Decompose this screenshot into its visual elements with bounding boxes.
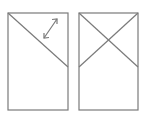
left-rectangle bbox=[8, 13, 68, 110]
right-panel bbox=[79, 13, 138, 110]
left-diagonal-line bbox=[8, 13, 68, 67]
double-arrow-icon bbox=[44, 19, 57, 38]
fold-diagram bbox=[0, 0, 151, 117]
right-rectangle bbox=[79, 13, 138, 110]
left-panel bbox=[8, 13, 68, 110]
